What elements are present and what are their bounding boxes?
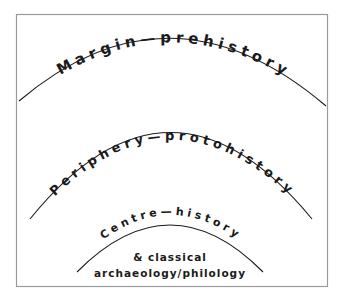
frame-border xyxy=(17,15,328,287)
centre-note-line2: archaeology/philology xyxy=(94,267,246,279)
centre-note-line1: & classical xyxy=(133,251,207,263)
concentric-zones-diagram: Margin—prehistory Periphery—protohistory… xyxy=(0,0,340,296)
